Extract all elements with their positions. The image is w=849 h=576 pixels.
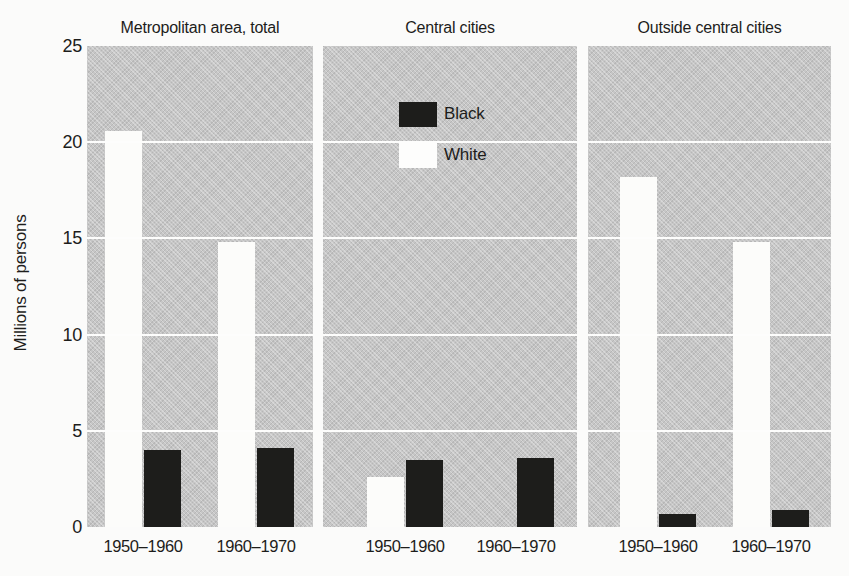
y-tick-label: 20	[22, 132, 82, 152]
y-tick-label: 10	[22, 325, 82, 345]
bar-white	[367, 477, 404, 527]
bar-group: 1950–1960	[620, 46, 696, 527]
bar-black	[772, 510, 809, 527]
bar-group: 1960–1970	[478, 46, 554, 527]
figure: Millions of persons 0510152025 Metropoli…	[0, 0, 849, 576]
x-tick-label: 1960–1970	[201, 536, 311, 556]
bar-black	[406, 460, 443, 527]
white-series-swatch-icon	[399, 143, 437, 168]
gridline	[323, 334, 577, 336]
gridline	[87, 237, 313, 239]
panel-outside-central-cities: Outside central cities 1950–1960 1960–19…	[588, 0, 831, 576]
bar-white	[620, 177, 657, 527]
bar-black	[659, 514, 696, 528]
gridline	[588, 141, 831, 143]
gridline	[588, 237, 831, 239]
plot-area: 1950–1960 1960–1970	[87, 46, 313, 527]
x-tick-label: 1950–1960	[603, 536, 713, 556]
gridline	[323, 237, 577, 239]
bar-black	[257, 448, 294, 527]
panel-central-cities: Central cities 1950–1960 1960–1970	[323, 0, 577, 576]
plot-area: 1950–1960 1960–1970	[588, 46, 831, 527]
bar-group: 1960–1970	[218, 46, 294, 527]
bar-white	[218, 242, 255, 527]
black-series-swatch-icon	[399, 102, 437, 127]
legend-item-white: White	[399, 142, 486, 168]
gridline	[87, 141, 313, 143]
panel-title: Outside central cities	[588, 19, 831, 37]
bar-white	[105, 131, 142, 527]
bar-black	[144, 450, 181, 527]
bar-group: 1960–1970	[733, 46, 809, 527]
panel-metropolitan-area-total: Metropolitan area, total 1950–1960 1960–…	[87, 0, 313, 576]
bar-black	[517, 458, 554, 527]
y-tick-label: 15	[22, 228, 82, 248]
gridline	[588, 334, 831, 336]
gridline	[87, 430, 313, 432]
x-tick-label: 1950–1960	[350, 536, 460, 556]
legend-item-black: Black	[399, 101, 485, 127]
panel-title: Central cities	[323, 19, 577, 37]
x-tick-label: 1960–1970	[461, 536, 571, 556]
bar-group: 1950–1960	[105, 46, 181, 527]
panel-title: Metropolitan area, total	[87, 19, 313, 37]
y-tick-label: 25	[22, 36, 82, 56]
bar-white	[733, 242, 770, 527]
legend-label: Black	[444, 104, 485, 124]
gridline	[588, 430, 831, 432]
x-tick-label: 1950–1960	[88, 536, 198, 556]
x-tick-label: 1960–1970	[716, 536, 826, 556]
legend-label: White	[444, 145, 486, 165]
gridline	[87, 334, 313, 336]
gridline	[323, 430, 577, 432]
y-tick-label: 5	[22, 421, 82, 441]
y-tick-label: 0	[22, 517, 82, 537]
